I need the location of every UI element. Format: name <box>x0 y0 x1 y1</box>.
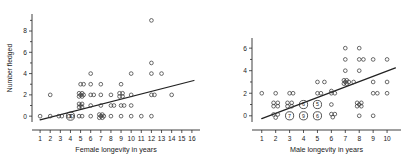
female-longevity-plot: 0246812345678910111213141516Female longe… <box>0 0 205 168</box>
x-tick-label: 6 <box>330 135 334 142</box>
x-tick-label: 1 <box>38 135 42 142</box>
data-point <box>385 91 389 95</box>
data-point <box>99 82 103 86</box>
overlap-cluster-count: 6 <box>302 101 305 107</box>
overlap-cluster-count: 7 <box>288 113 291 119</box>
data-point <box>260 91 264 95</box>
data-point <box>316 80 320 84</box>
data-point <box>150 61 154 65</box>
x-tick-label: 7 <box>99 135 103 142</box>
data-point <box>343 69 347 73</box>
overlap-cluster-count: 9 <box>302 113 305 119</box>
x-tick-label: 15 <box>178 135 186 142</box>
panel-female-longevity: 0246812345678910111213141516Female longe… <box>0 0 205 168</box>
overlap-cluster-count: 5 <box>316 101 319 107</box>
data-point <box>331 115 335 119</box>
data-point <box>385 80 389 84</box>
data-point <box>371 91 375 95</box>
overlap-cluster-count: 6 <box>316 113 319 119</box>
data-point <box>48 93 52 97</box>
data-point <box>362 58 366 62</box>
data-point <box>99 93 103 97</box>
x-tick-label: 9 <box>119 135 123 142</box>
y-tick-label: 0 <box>23 113 27 120</box>
data-point <box>89 82 93 86</box>
y-tick-label: 4 <box>243 67 247 74</box>
x-tick-label: 10 <box>128 135 136 142</box>
data-point <box>371 80 375 84</box>
data-point <box>343 46 347 50</box>
y-tick-label: 0 <box>243 112 247 119</box>
x-tick-label: 16 <box>188 135 196 142</box>
x-tick-label: 9 <box>371 135 375 142</box>
x-tick-label: 13 <box>158 135 166 142</box>
x-tick-label: 12 <box>148 135 156 142</box>
x-tick-label: 8 <box>357 135 361 142</box>
x-tick-label: 5 <box>79 135 83 142</box>
data-point <box>160 72 164 76</box>
x-tick-label: 4 <box>69 135 73 142</box>
x-tick-label: 7 <box>343 135 347 142</box>
data-point <box>89 72 93 76</box>
male-longevity-plot: 024612345678910Male longevity in years65… <box>205 0 410 168</box>
data-point <box>357 114 361 118</box>
x-tick-label: 4 <box>302 135 306 142</box>
data-point <box>150 19 154 23</box>
y-axis-title: Number fledged <box>6 44 14 93</box>
data-point <box>371 58 375 62</box>
y-tick-label: 6 <box>243 45 247 52</box>
scatter-figure: 0246812345678910111213141516Female longe… <box>0 0 410 168</box>
data-point <box>89 114 93 118</box>
y-tick-label: 4 <box>23 70 27 77</box>
data-point <box>170 93 174 97</box>
data-point <box>109 114 113 118</box>
data-point <box>109 93 113 97</box>
data-point <box>38 114 42 118</box>
data-point <box>150 114 154 118</box>
y-tick-label: 2 <box>23 91 27 98</box>
x-tick-label: 6 <box>89 135 93 142</box>
x-tick-label: 5 <box>316 135 320 142</box>
data-point <box>343 58 347 62</box>
data-point <box>274 116 278 120</box>
x-tick-label: 8 <box>109 135 113 142</box>
data-point <box>129 114 133 118</box>
x-tick-label: 10 <box>383 135 391 142</box>
x-tick-label: 11 <box>138 135 145 142</box>
data-point <box>357 46 361 50</box>
overlap-cluster-count: 9 <box>69 113 72 119</box>
x-tick-label: 3 <box>288 135 292 142</box>
panel-male-longevity: 024612345678910Male longevity in years65… <box>205 0 410 168</box>
data-point <box>375 91 379 95</box>
data-point <box>150 72 154 76</box>
data-point <box>323 80 327 84</box>
regression-line <box>40 81 194 120</box>
data-point <box>357 69 361 73</box>
data-point <box>385 58 389 62</box>
data-point <box>274 91 278 95</box>
x-tick-label: 2 <box>274 135 278 142</box>
x-tick-label: 2 <box>48 135 52 142</box>
data-point <box>357 58 361 62</box>
data-point <box>129 104 133 108</box>
data-point <box>139 114 143 118</box>
data-point <box>371 114 375 118</box>
x-tick-label: 1 <box>260 135 264 142</box>
data-point <box>129 72 133 76</box>
data-point <box>119 82 123 86</box>
x-axis-title: Male longevity in years <box>290 145 364 154</box>
y-tick-label: 2 <box>243 90 247 97</box>
x-tick-label: 3 <box>59 135 63 142</box>
y-tick-label: 8 <box>23 27 27 34</box>
data-point <box>119 114 123 118</box>
data-point <box>330 103 334 107</box>
x-tick-label: 14 <box>168 135 176 142</box>
x-axis-title: Female longevity in years <box>75 145 157 154</box>
y-tick-label: 6 <box>23 49 27 56</box>
